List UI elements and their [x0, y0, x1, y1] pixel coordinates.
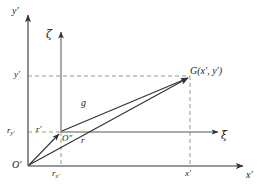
tick-rx-prime-subscript: x′ — [56, 173, 60, 179]
vector-g — [29, 78, 188, 165]
tick-rx-prime-label: rx′ — [52, 169, 60, 179]
origin-o-double-prime-label: O″ — [62, 134, 72, 143]
point-g-label: G(x′, y′) — [190, 66, 222, 76]
vectors — [29, 78, 188, 165]
y-prime-axis-label: y′ — [12, 6, 19, 16]
xi-axis-label: ξ — [221, 130, 227, 141]
zeta-axis-label: ζ — [46, 29, 52, 40]
origin-o-prime-label: O′ — [12, 160, 21, 170]
coordinate-transformation-figure: y′ x′ ζ ξ O′ O″ y′ x′ ry′ rx′ r′ r g G(x… — [0, 0, 261, 193]
tick-x-prime-label: x′ — [185, 169, 191, 178]
tick-ry-prime-subscript: y′ — [11, 130, 15, 136]
x-prime-axis-label: x′ — [246, 170, 253, 180]
local-axes — [61, 32, 218, 132]
vector-r-prime — [29, 134, 59, 165]
figure-canvas — [0, 0, 261, 193]
tick-ry-prime-label: ry′ — [7, 126, 15, 136]
tick-y-prime-label: y′ — [14, 70, 20, 79]
vector-r-label: r — [81, 136, 85, 145]
vector-g-label: g — [81, 98, 86, 108]
vector-r-prime-label: r′ — [36, 125, 41, 134]
global-axes — [28, 15, 243, 166]
